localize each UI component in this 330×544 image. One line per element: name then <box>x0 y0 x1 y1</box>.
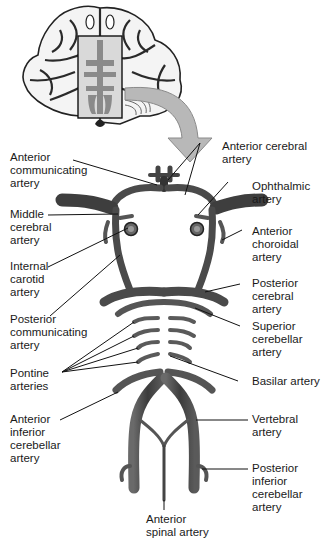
curved-arrow-icon <box>125 87 212 162</box>
label-line: cerebellar <box>252 333 303 346</box>
label-line: Vertebral <box>252 413 298 426</box>
label-superior-cerebellar-artery: Superior cerebellar artery <box>252 320 303 359</box>
label-anterior-spinal-artery: Anterior spinal artery <box>146 513 209 539</box>
label-line: cerebellar <box>252 488 303 501</box>
label-line: Basilar artery <box>252 375 320 388</box>
label-line: inferior <box>10 426 61 439</box>
artery-network <box>62 168 262 500</box>
label-line: arteries <box>10 380 49 393</box>
label-line: inferior <box>252 475 303 488</box>
label-line: artery <box>10 339 87 352</box>
label-anterior-cerebral-artery: Anterior cerebral artery <box>222 140 307 166</box>
label-line: artery <box>10 286 48 299</box>
label-line: communicating <box>10 164 87 177</box>
label-line: artery <box>252 193 310 206</box>
label-ophthalmic-artery: Ophthalmic artery <box>252 180 310 206</box>
label-line: communicating <box>10 326 87 339</box>
label-line: Posterior <box>252 277 298 290</box>
label-line: artery <box>252 303 298 316</box>
label-middle-cerebral-artery: Middle cerebral artery <box>10 208 52 247</box>
label-posterior-communicating-artery: Posterior communicating artery <box>10 313 87 352</box>
label-line: Anterior <box>10 151 87 164</box>
label-line: artery <box>10 177 87 190</box>
label-posterior-cerebral-artery: Posterior cerebral artery <box>252 277 298 316</box>
label-basilar-artery: Basilar artery <box>252 375 320 388</box>
label-line: cerebral <box>252 290 298 303</box>
label-line: Posterior <box>252 462 303 475</box>
label-line: artery <box>10 452 61 465</box>
label-line: artery <box>252 426 298 439</box>
label-internal-carotid-artery: Internal carotid artery <box>10 260 48 299</box>
label-line: Anterior <box>146 513 209 526</box>
label-line: Internal <box>10 260 48 273</box>
label-anterior-choroidal-artery: Anterior choroidal artery <box>252 225 299 264</box>
label-line: Ophthalmic <box>252 180 310 193</box>
label-vertebral-artery: Vertebral artery <box>252 413 298 439</box>
brain-inferior-view-icon <box>23 6 181 127</box>
label-line: artery <box>252 346 303 359</box>
label-line: Pontine <box>10 367 49 380</box>
label-line: Anterior <box>252 225 299 238</box>
label-line: artery <box>252 501 303 514</box>
label-anterior-inferior-cerebellar-artery: Anterior inferior cerebellar artery <box>10 413 61 465</box>
label-line: cerebellar <box>10 439 61 452</box>
label-line: spinal artery <box>146 526 209 539</box>
label-line: Posterior <box>10 313 87 326</box>
label-anterior-communicating-artery: Anterior communicating artery <box>10 151 87 190</box>
label-line: cerebral <box>10 221 52 234</box>
label-line: artery <box>222 153 307 166</box>
label-line: artery <box>252 251 299 264</box>
label-posterior-inferior-cerebellar-artery: Posterior inferior cerebellar artery <box>252 462 303 514</box>
label-line: choroidal <box>252 238 299 251</box>
label-line: Anterior cerebral <box>222 140 307 153</box>
label-line: Anterior <box>10 413 61 426</box>
label-line: Superior <box>252 320 303 333</box>
label-pontine-arteries: Pontine arteries <box>10 367 49 393</box>
label-line: carotid <box>10 273 48 286</box>
label-line: artery <box>10 234 52 247</box>
label-line: Middle <box>10 208 52 221</box>
